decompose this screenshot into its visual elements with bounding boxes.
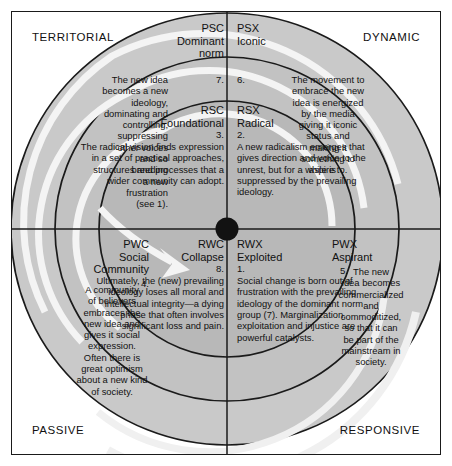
narrative-line: controlling, <box>56 119 168 130</box>
narrative-line: embrace the new <box>272 85 384 96</box>
node-rwc-name: Collapse <box>90 251 224 264</box>
narrative-line: something to <box>272 153 384 164</box>
node-rwc-number: 8. <box>90 263 224 275</box>
narrative-line: of believers <box>58 295 166 306</box>
narrative-line: a new <box>56 176 168 187</box>
narrative-line: of society. <box>58 386 166 397</box>
narrative-line: The new idea <box>56 74 168 85</box>
node-pwx-narrative: The newidea becomescommercializedandcomm… <box>328 266 414 368</box>
axis-label-territorial: TERRITORIAL <box>32 31 114 43</box>
narrative-line: idea is energized <box>272 97 384 108</box>
narrative-line: (see 1). <box>56 198 168 209</box>
narrative-line: and so <box>56 153 168 164</box>
narrative-line: suppressing <box>56 130 168 141</box>
narrative-line: gives it social <box>58 329 166 340</box>
narrative-line: expression. <box>58 340 166 351</box>
axis-label-passive: PASSIVE <box>32 424 84 436</box>
narrative-line: about a new kind <box>58 374 166 385</box>
node-psx-name: Iconic <box>237 35 327 48</box>
node-psc-name: Dominant norm <box>144 35 224 60</box>
narrative-line: commoditized, <box>328 311 414 322</box>
narrative-line: commercialized <box>328 289 414 300</box>
axis-label-dynamic: DYNAMIC <box>363 31 420 43</box>
axis-label-responsive: RESPONSIVE <box>340 424 420 436</box>
narrative-line: making it <box>272 142 384 153</box>
narrative-line: idea becomes <box>328 277 414 288</box>
node-psc-code: PSC <box>144 22 224 35</box>
narrative-line: be part of the <box>328 334 414 345</box>
node-rwx-name: Exploited <box>237 251 389 264</box>
node-psc-narrative: The new ideabecomes a newideology,domina… <box>56 74 168 210</box>
narrative-line: becomes a new <box>56 85 168 96</box>
narrative-line: aspire to. <box>272 164 384 175</box>
narrative-line: society. <box>328 356 414 367</box>
narrative-line: The new <box>328 266 414 277</box>
narrative-line: ideology, <box>56 97 168 108</box>
node-psx-code: PSX <box>237 22 327 35</box>
narrative-line: by the media <box>272 108 384 119</box>
narrative-line: A community <box>58 284 166 295</box>
diagram-frame: TERRITORIAL DYNAMIC PASSIVE RESPONSIVE P… <box>11 11 441 455</box>
narrative-line: status and <box>272 130 384 141</box>
narrative-line: other voices <box>56 142 168 153</box>
narrative-line: frustration <box>56 187 168 198</box>
narrative-line: breeding <box>56 164 168 175</box>
node-psx-narrative: The movement toembrace the newidea is en… <box>272 74 384 176</box>
narrative-line: dominating and <box>56 108 168 119</box>
narrative-line: embraces the <box>58 307 166 318</box>
narrative-line: great optimism <box>58 363 166 374</box>
node-pwc-narrative: A communityof believersembraces thenew i… <box>58 284 166 397</box>
node-rwc-code: RWC <box>90 238 224 251</box>
narrative-line: so that it can <box>328 322 414 333</box>
narrative-line: giving it iconic <box>272 119 384 130</box>
narrative-line: and <box>328 300 414 311</box>
narrative-line: mainstream in <box>328 345 414 356</box>
narrative-line: Often there is <box>58 352 166 363</box>
diagram-canvas: TERRITORIAL DYNAMIC PASSIVE RESPONSIVE P… <box>0 0 452 466</box>
node-rwx-code: RWX <box>237 238 389 251</box>
narrative-line: new idea and <box>58 318 166 329</box>
narrative-line: The movement to <box>272 74 384 85</box>
